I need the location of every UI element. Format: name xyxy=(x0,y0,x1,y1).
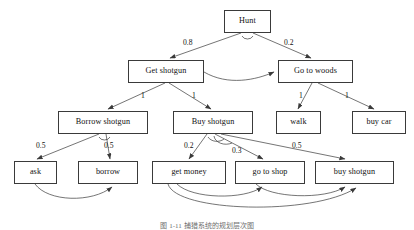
node-walk[interactable]: walk xyxy=(276,111,321,134)
and-arc-hunt xyxy=(242,36,253,39)
node-label: buy shotgun xyxy=(334,168,375,176)
edge-order-get-money-buy-shotgun xyxy=(168,184,356,207)
edge-get-shotgun-buy-shotgun xyxy=(169,83,211,109)
edge-label-get-shotgun-borrow-shotgun: 1 xyxy=(141,91,145,100)
node-label: Hunt xyxy=(239,17,256,25)
edge-order-get-shotgun-go-to-woods xyxy=(204,72,274,80)
edge-label-borrow-shotgun-ask: 0.5 xyxy=(36,141,46,150)
node-go-to-woods[interactable]: Go to woods xyxy=(278,60,353,83)
node-buy-car[interactable]: buy car xyxy=(352,111,406,134)
node-get-shotgun[interactable]: Get shotgun xyxy=(128,60,204,83)
node-buy-shotgun-mid[interactable]: Buy shotgun xyxy=(173,111,253,134)
edge-order-ask-borrow xyxy=(35,184,112,198)
edge-order-go-to-shop-buy-shotgun xyxy=(256,184,345,196)
figure-canvas: Hunt Get shotgun Go to woods Borrow shot… xyxy=(0,0,414,230)
edge-label-buy-shotgun-go-to-shop: 0.3 xyxy=(232,146,242,155)
and-arc-borrow-shotgun xyxy=(99,137,110,140)
node-go-to-shop[interactable]: go to shop xyxy=(235,161,305,184)
edge-borrow-shotgun-ask xyxy=(37,134,99,159)
node-label: walk xyxy=(290,118,306,126)
node-label: Borrow shotgun xyxy=(76,118,130,126)
edge-get-shotgun-borrow-shotgun xyxy=(108,83,165,109)
edge-label-go-to-woods-walk: 1 xyxy=(299,91,303,100)
node-label: ask xyxy=(30,168,41,176)
node-borrow-shotgun[interactable]: Borrow shotgun xyxy=(58,111,148,134)
edge-label-buy-shotgun-buy-shotgun: 0.5 xyxy=(292,141,302,150)
node-label: buy car xyxy=(366,118,391,126)
edge-hunt-go-to-woods xyxy=(253,33,311,58)
edge-label-hunt-go-to-woods: 0.2 xyxy=(284,38,294,47)
node-label: get money xyxy=(171,168,206,176)
node-buy-shotgun-leaf[interactable]: buy shotgun xyxy=(315,161,394,184)
node-label: go to shop xyxy=(252,168,287,176)
figure-caption: 图 1-11 捕猎系统的规划层次图 xyxy=(0,220,414,230)
node-hunt[interactable]: Hunt xyxy=(224,10,271,33)
edge-label-borrow-shotgun-borrow: 0.5 xyxy=(104,141,114,150)
node-label: Go to woods xyxy=(294,67,337,75)
edge-label-buy-shotgun-get-money: 0.2 xyxy=(184,141,194,150)
node-borrow[interactable]: borrow xyxy=(78,161,138,184)
node-label: Buy shotgun xyxy=(192,118,235,126)
node-label: borrow xyxy=(96,168,120,176)
edge-label-hunt-get-shotgun: 0.8 xyxy=(183,38,193,47)
node-ask[interactable]: ask xyxy=(14,161,57,184)
edge-label-get-shotgun-buy-shotgun: 1 xyxy=(192,91,196,100)
edge-order-get-money-go-to-shop xyxy=(177,184,262,196)
edge-label-go-to-woods-buy-car: 1 xyxy=(345,91,349,100)
node-get-money[interactable]: get money xyxy=(152,161,226,184)
edge-hunt-get-shotgun xyxy=(170,33,241,58)
node-label: Get shotgun xyxy=(146,67,187,75)
